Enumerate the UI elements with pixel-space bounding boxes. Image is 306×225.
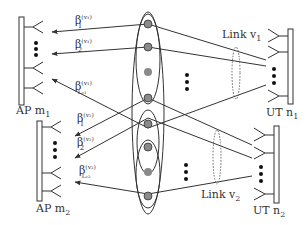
diagram-canvas: AP m1 AP m2 UT n1	[0, 0, 306, 225]
node-icon	[144, 120, 152, 128]
link-v2-group-ellipse	[137, 110, 159, 174]
antenna-icon	[254, 128, 274, 200]
node-icon	[144, 192, 152, 200]
beta-v1-1: β(v₁)1	[75, 13, 92, 30]
ap-m2: AP m2	[35, 121, 70, 217]
beta-v2-1: β(v₂)1	[77, 111, 94, 128]
antenna-icon	[42, 121, 61, 197]
ellipsis-dots-icon	[184, 73, 189, 181]
node-icon	[144, 94, 152, 102]
ut-n1-label: UT n1	[266, 106, 298, 121]
ap-m2-label: AP m2	[35, 202, 70, 217]
beta-v2-L: β(v₂)Lᵥ₂	[79, 163, 96, 179]
ellipsis-dots-icon	[53, 141, 57, 159]
node-icon	[144, 68, 152, 76]
ellipsis-dots-icon	[272, 67, 276, 85]
ut-n2-label: UT n2	[253, 204, 285, 219]
ut-n1: UT n1	[266, 29, 298, 121]
ap-m1-label: AP m1	[15, 104, 50, 119]
node-icon	[144, 43, 152, 51]
link-v2-ellipse	[213, 130, 221, 184]
ellipsis-dots-icon	[259, 165, 263, 183]
ut-n2: UT n2	[253, 126, 285, 219]
node-icon	[144, 20, 152, 28]
link-v2-label: Link v2	[201, 188, 240, 203]
antenna-icon	[24, 21, 43, 94]
ellipsis-dots-icon	[34, 41, 38, 57]
link-v1-ellipse	[232, 47, 240, 99]
path-group-ellipses	[132, 12, 164, 214]
beta-v1-L: β(v₁)Lᵥ₁	[75, 79, 92, 95]
ap-m1: AP m1	[15, 17, 50, 119]
node-icon	[144, 168, 152, 176]
node-icon	[144, 143, 152, 151]
link-v1-label: Link v1	[222, 28, 261, 43]
antenna-icon	[268, 29, 288, 102]
